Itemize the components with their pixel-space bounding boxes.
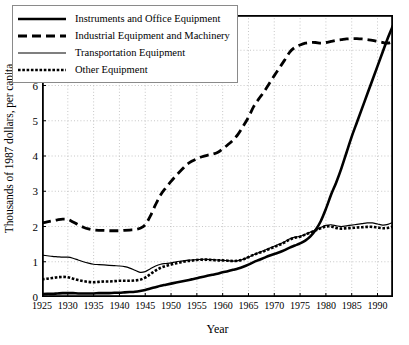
x-axis-tick-labels: 1925193019351940194519501955196019651970… [42,300,393,314]
x-tick-label: 1975 [290,300,310,312]
x-tick-label: 1960 [213,300,233,312]
legend-swatch-icon [18,13,66,25]
legend-swatch-icon [18,47,66,59]
x-tick-label: 1935 [84,300,104,312]
legend-item: Instruments and Office Equipment [18,10,230,27]
chart-figure: Thousands of 1987 dollars, per capita 01… [0,0,409,345]
legend-item: Transportation Equipment [18,44,230,61]
legend-label: Industrial Equipment and Machinery [75,30,230,42]
y-tick-label: 3 [18,186,38,197]
y-tick-label: 4 [18,151,38,162]
x-tick-label: 1965 [238,300,258,312]
x-tick-label: 1945 [135,300,155,312]
y-tick-label: 5 [18,115,38,126]
x-tick-label: 1990 [368,300,388,312]
x-tick-label: 1955 [187,300,207,312]
legend-label: Instruments and Office Equipment [75,13,220,25]
legend-label: Other Equipment [75,64,148,76]
legend-swatch-icon [18,64,66,76]
x-tick-label: 1970 [264,300,284,312]
legend-label: Transportation Equipment [75,47,185,59]
legend-item: Other Equipment [18,61,230,78]
chart-legend: Instruments and Office EquipmentIndustri… [12,5,238,83]
x-tick-label: 1940 [109,300,129,312]
x-tick-label: 1950 [161,300,181,312]
y-tick-label: 2 [18,221,38,232]
x-tick-label: 1985 [342,300,362,312]
x-tick-label: 1980 [316,300,336,312]
x-axis-label: Year [42,322,393,336]
x-tick-label: 1930 [58,300,78,312]
legend-swatch-icon [18,30,66,42]
legend-item: Industrial Equipment and Machinery [18,27,230,44]
x-tick-label: 1925 [32,300,52,312]
y-tick-label: 1 [18,256,38,267]
